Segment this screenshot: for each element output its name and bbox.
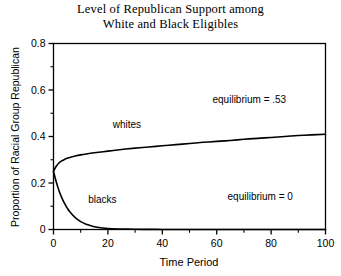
chart-figure: Level of Republican Support among White … xyxy=(0,0,341,276)
plot-area: 00.20.40.60.8020406080100whitesblacksequ… xyxy=(0,0,341,276)
y-tick-label: 0.4 xyxy=(31,130,46,142)
series-line-whites xyxy=(54,134,326,171)
y-tick-label: 0.2 xyxy=(31,177,46,189)
whites-equilibrium-label: equilibrium = .53 xyxy=(213,94,287,105)
x-tick-label: 100 xyxy=(317,237,335,249)
x-tick-label: 40 xyxy=(156,237,168,249)
x-tick-label: 80 xyxy=(265,237,277,249)
y-tick-label: 0.6 xyxy=(31,84,46,96)
whites-curve-label: whites xyxy=(112,119,141,130)
x-tick-label: 0 xyxy=(51,237,57,249)
y-tick-label: 0.8 xyxy=(31,37,46,49)
x-tick-label: 20 xyxy=(102,237,114,249)
blacks-equilibrium-label: equilibrium = 0 xyxy=(228,191,294,202)
blacks-curve-label: blacks xyxy=(88,194,116,205)
y-tick-label: 0 xyxy=(40,223,46,235)
x-tick-label: 60 xyxy=(211,237,223,249)
